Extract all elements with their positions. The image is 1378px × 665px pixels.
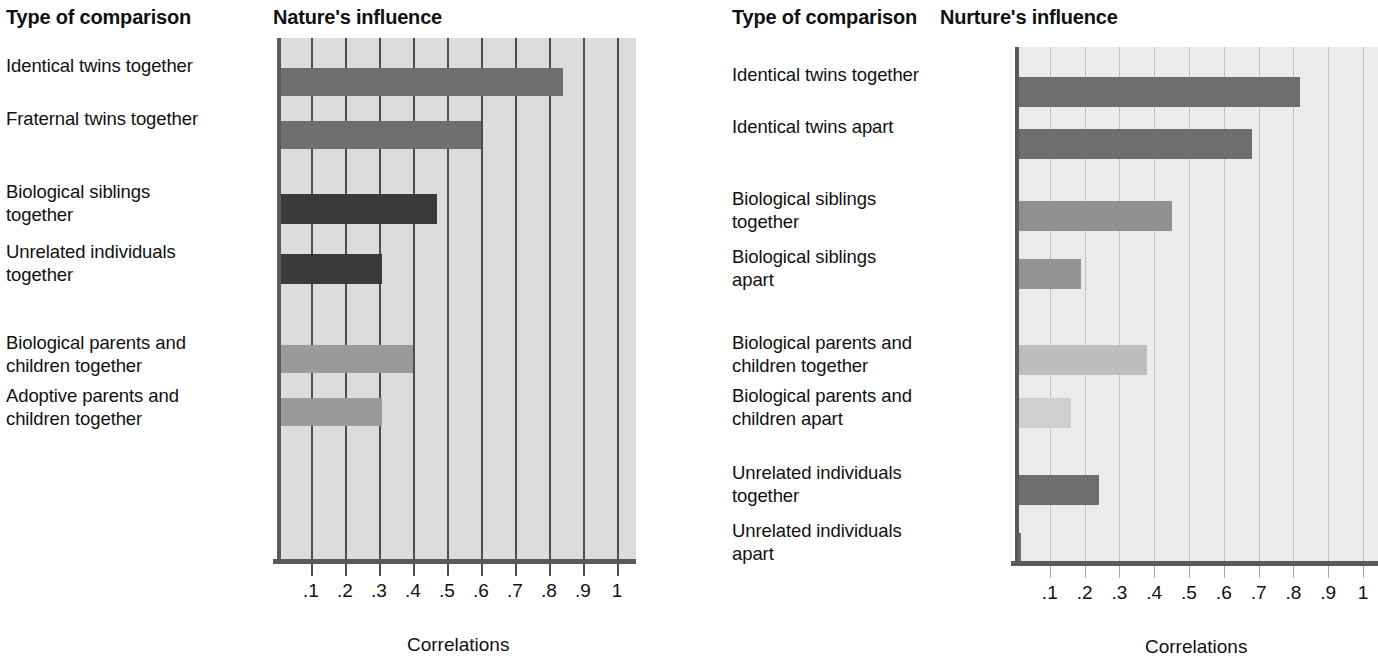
tick-4 [1154,566,1155,578]
row-label-3: Biological siblings together [732,187,1012,233]
row-label-2: Fraternal twins together [6,107,266,130]
tick-9 [1328,566,1329,578]
gridline-6 [481,38,483,559]
gridline-10 [617,38,619,559]
bar-5 [1019,345,1147,375]
gridline-7 [515,38,517,559]
tick-3 [1119,566,1120,578]
tick-7 [1259,566,1260,578]
bar-4 [1019,259,1081,289]
column-header-type-of-comparison-2: Type of comparison [732,6,917,29]
bar-6 [1019,398,1071,428]
bar-3 [281,194,437,224]
tick-7 [515,564,517,576]
tick-2 [345,564,347,576]
row-label-4: Biological siblings apart [732,245,1012,291]
gridline-9 [1328,47,1329,561]
x-axis-line-nurture [1011,561,1378,566]
gridline-8 [1293,47,1294,561]
bar-4 [281,254,382,284]
x-axis-title-nurture: Correlations [1145,636,1247,658]
plot-area-nurture [1015,47,1378,561]
bar-2 [281,121,481,149]
x-axis-line-nature [273,559,636,564]
bar-3 [1019,201,1172,231]
row-label-7: Unrelated individuals together [732,461,1012,507]
row-label-6: Adoptive parents and children together [6,384,266,430]
bar-1 [281,68,563,96]
column-header-type-of-comparison: Type of comparison [6,6,191,29]
bar-2 [1019,129,1252,159]
row-label-2: Identical twins apart [732,115,1012,138]
tick-label-10: 1 [597,580,637,602]
bar-5 [281,345,413,373]
x-axis-title-nature: Correlations [407,634,509,656]
plot-area-nature [277,38,636,559]
row-label-5: Biological parents and children together [6,331,266,377]
gridline-9 [583,38,585,559]
row-label-8: Unrelated individuals apart [732,519,1012,565]
tick-4 [413,564,415,576]
row-label-1: Identical twins together [732,63,1012,86]
row-label-3: Biological siblings together [6,180,266,226]
gridline-3 [379,38,381,559]
gridline-4 [1154,47,1155,561]
chart-panel-nature: Type of comparison Nature's influence Id… [0,0,690,665]
tick-10 [617,564,619,576]
tick-3 [379,564,381,576]
tick-5 [447,564,449,576]
tick-1 [311,564,313,576]
chart-title-nurture: Nurture's influence [940,6,1118,29]
bar-8 [1019,533,1021,563]
tick-5 [1189,566,1190,578]
bar-6 [281,398,382,426]
gridline-1 [311,38,313,559]
tick-8 [1293,566,1294,578]
gridline-5 [447,38,449,559]
gridline-3 [1119,47,1120,561]
bar-1 [1019,77,1300,107]
gridline-7 [1259,47,1260,561]
gridline-6 [1224,47,1225,561]
chart-panel-nurture: Type of comparison Nurture's influence I… [690,0,1378,665]
bar-7 [1019,475,1099,505]
tick-10 [1363,566,1364,578]
row-label-5: Biological parents and children together [732,331,1012,377]
tick-1 [1050,566,1051,578]
tick-2 [1085,566,1086,578]
chart-title-nature: Nature's influence [273,6,442,29]
gridline-5 [1189,47,1190,561]
tick-8 [549,564,551,576]
row-label-4: Unrelated individuals together [6,240,266,286]
tick-6 [1224,566,1225,578]
row-label-6: Biological parents and children apart [732,384,1012,430]
gridline-10 [1363,47,1364,561]
gridline-2 [345,38,347,559]
gridline-4 [413,38,415,559]
y-axis-line-nature [277,38,281,559]
tick-label-10: 1 [1343,582,1378,604]
tick-9 [583,564,585,576]
tick-6 [481,564,483,576]
row-label-1: Identical twins together [6,54,266,77]
figure-root: Type of comparison Nature's influence Id… [0,0,1378,665]
gridline-8 [549,38,551,559]
